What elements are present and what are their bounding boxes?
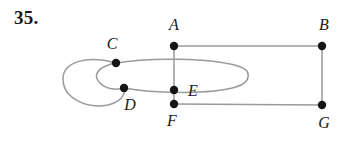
figure-container: 35. A B C D E F G: [0, 0, 348, 148]
vertex-b: [318, 42, 326, 50]
vertex-g: [318, 101, 326, 109]
vertex-label-a: A: [168, 16, 179, 33]
vertex-label-c: C: [107, 35, 118, 52]
vertex-label-b: B: [319, 16, 329, 33]
edge-f-g: [174, 104, 322, 105]
edge-c-d-wide-ellipse-through-e: [116, 59, 248, 92]
vertex-c: [112, 59, 120, 67]
vertex-label-d: D: [123, 96, 136, 113]
vertex-label-f: F: [166, 112, 177, 129]
graph-diagram: A B C D E F G: [0, 0, 348, 148]
vertex-e: [170, 86, 178, 94]
vertex-d: [120, 84, 128, 92]
vertex-label-e: E: [187, 82, 198, 99]
edge-c-d-small-inner-loop: [96, 63, 124, 89]
vertex-f: [170, 100, 178, 108]
vertex-label-g: G: [318, 114, 330, 131]
vertex-a: [170, 42, 178, 50]
